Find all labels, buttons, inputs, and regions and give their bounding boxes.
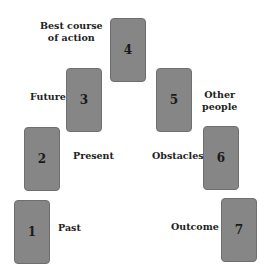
label-line: people: [202, 101, 237, 113]
card-3: 3: [66, 68, 102, 132]
label-line: Other: [202, 89, 237, 101]
card-number: 6: [217, 151, 225, 165]
label-best-course-of-action: Best course of action: [40, 20, 103, 44]
card-number: 2: [38, 152, 46, 166]
card-number: 5: [170, 93, 178, 107]
label-other-people: Other people: [202, 89, 237, 113]
card-number: 7: [235, 223, 243, 237]
card-7: 7: [221, 198, 257, 262]
card-4: 4: [110, 18, 146, 82]
card-number: 3: [80, 93, 88, 107]
label-past: Past: [58, 222, 81, 234]
card-1: 1: [14, 200, 50, 264]
card-number: 4: [124, 43, 132, 57]
label-line: Best course: [40, 20, 103, 32]
label-line: of action: [40, 32, 103, 44]
card-number: 1: [28, 225, 36, 239]
label-outcome: Outcome: [171, 221, 219, 233]
card-5: 5: [156, 68, 192, 132]
label-obstacles: Obstacles: [152, 150, 204, 162]
card-6: 6: [203, 126, 239, 190]
card-2: 2: [24, 127, 60, 191]
label-future: Future: [30, 91, 66, 103]
label-present: Present: [73, 150, 114, 162]
